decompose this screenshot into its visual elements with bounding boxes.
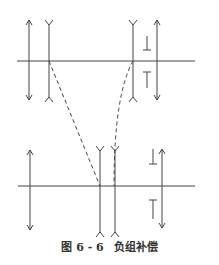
top-configuration	[17, 20, 195, 102]
bottom-configuration	[18, 146, 195, 237]
figure-title: 负组补偿	[114, 241, 158, 254]
diverging-lens-icon	[111, 146, 119, 237]
figure-caption: 图 6 - 6负组补偿	[0, 238, 219, 254]
zoom-compensation-diagram	[0, 0, 219, 265]
figure-number: 图 6 - 6	[61, 241, 103, 254]
converging-lens-icon	[154, 20, 160, 100]
converging-lens-icon	[159, 149, 165, 228]
converging-lens-icon	[27, 150, 33, 230]
motion-path-straight	[49, 61, 100, 186]
motion-path-curved	[114, 61, 133, 186]
motion-paths	[49, 61, 133, 186]
diverging-lens-icon	[96, 146, 104, 237]
converging-lens-icon	[26, 20, 32, 100]
image-mark-icon	[143, 36, 151, 88]
image-mark-icon	[149, 149, 157, 219]
